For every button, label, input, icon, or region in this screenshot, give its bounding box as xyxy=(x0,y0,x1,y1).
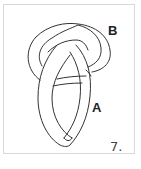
strand-a-inner-left xyxy=(52,55,72,138)
step-number: 7. xyxy=(110,140,122,153)
label-a: A xyxy=(92,101,101,114)
loop-b-inner xyxy=(39,25,101,67)
label-b: B xyxy=(108,24,117,37)
bottom-twist xyxy=(64,138,72,141)
crossing-strand xyxy=(48,40,88,52)
cross-band-top xyxy=(57,76,86,79)
link-right-top xyxy=(86,70,91,76)
strand-a-outer-left xyxy=(38,45,70,147)
strand-a-right-inner xyxy=(64,52,81,138)
cross-band-bottom xyxy=(53,83,82,86)
